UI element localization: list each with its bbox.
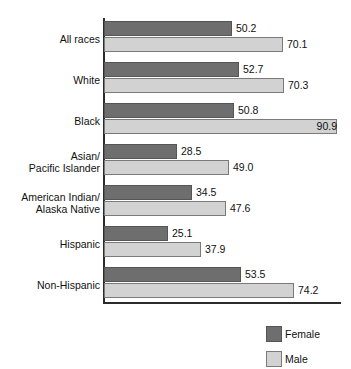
category-label: White [0, 74, 100, 86]
bar-value-male: 47.6 [226, 201, 250, 216]
bar-female [104, 185, 192, 200]
bar-female [104, 144, 177, 159]
legend-item-female: Female [266, 324, 351, 344]
bar-male [104, 201, 226, 216]
legend-swatch-male-icon [266, 351, 282, 367]
bar-value-male: 74.2 [294, 283, 318, 298]
bar-value-female: 50.2 [232, 21, 256, 36]
bar-male [104, 160, 229, 175]
bar-value-female: 25.1 [168, 226, 192, 241]
x-axis-line [103, 302, 341, 304]
chart-legend: Female Male [266, 324, 351, 369]
bar-male [104, 37, 283, 52]
bar-male [104, 78, 284, 93]
bar-female [104, 226, 168, 241]
bar-value-female: 34.5 [192, 185, 216, 200]
bar-chart: All races 50.2 70.1 White 52.7 70.3 [0, 0, 351, 369]
bar-value-male: 70.3 [284, 78, 308, 93]
bar-female [104, 62, 239, 77]
legend-label-female: Female [282, 326, 320, 342]
legend-label-male: Male [282, 351, 308, 367]
category-label: Non-Hispanic [0, 279, 100, 291]
category-label: Hispanic [0, 238, 100, 250]
category-label: Black [0, 115, 100, 127]
bar-value-female: 52.7 [239, 62, 263, 77]
plot-area: All races 50.2 70.1 White 52.7 70.3 [0, 0, 351, 310]
bar-value-female: 50.8 [234, 103, 258, 118]
bar-female [104, 267, 241, 282]
bar-female [104, 21, 232, 36]
category-label: Asian/ Pacific Islander [0, 150, 100, 174]
bar-value-male: 37.9 [201, 242, 225, 257]
category-label: All races [0, 33, 100, 45]
bar-female [104, 103, 234, 118]
bar-value-male: 70.1 [283, 37, 307, 52]
bar-value-male: 49.0 [229, 160, 253, 175]
bar-value-female: 53.5 [241, 267, 265, 282]
bar-value-female: 28.5 [177, 144, 201, 159]
bar-male [104, 242, 201, 257]
bar-male [104, 283, 294, 298]
legend-swatch-female-icon [266, 326, 282, 342]
category-label: American Indian/ Alaska Native [0, 191, 100, 215]
bar-value-male: 90.9 [104, 119, 342, 134]
legend-item-male: Male [266, 349, 351, 369]
